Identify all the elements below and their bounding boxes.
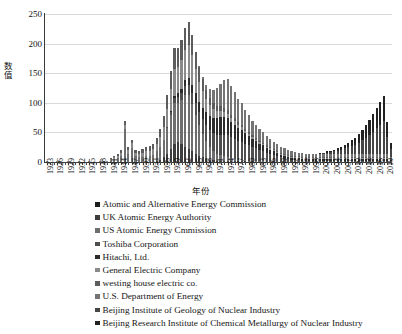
bar-segment xyxy=(180,60,182,88)
bar-segment xyxy=(195,69,197,94)
bar-segment xyxy=(205,125,207,140)
legend-item-10[interactable]: Beijing Research Institute of Chemical M… xyxy=(95,317,402,330)
bar-segment xyxy=(230,137,232,158)
bar-segment xyxy=(173,48,175,68)
stacked-bar xyxy=(365,125,367,162)
bar-segment xyxy=(230,86,232,114)
bar-segment xyxy=(202,119,204,133)
bar-segment xyxy=(248,115,250,132)
bar-segment xyxy=(188,95,190,149)
bar-segment xyxy=(386,137,388,155)
legend-label: Hitachi, Ltd. xyxy=(103,251,150,264)
bar-segment xyxy=(209,116,211,130)
bar-segment xyxy=(198,67,200,81)
bar-segment xyxy=(258,129,260,141)
bar-segment xyxy=(255,125,257,138)
bar-segment xyxy=(234,139,236,159)
stacked-bar xyxy=(177,48,179,162)
bar-segment xyxy=(376,108,378,128)
bar-segment xyxy=(241,130,243,142)
bar-segment xyxy=(212,109,214,117)
legend-label: US Atomic Energy Cmmission xyxy=(103,224,217,237)
bar-segment xyxy=(170,115,172,149)
bar-segment xyxy=(180,40,182,60)
stacked-bar xyxy=(386,122,388,162)
bar-segment xyxy=(212,118,214,133)
bar-segment xyxy=(358,143,360,155)
bar-segment xyxy=(202,91,204,108)
bar-segment xyxy=(170,71,172,89)
legend-swatch-icon xyxy=(95,215,100,220)
bar-segment xyxy=(195,52,197,69)
stacked-bar xyxy=(237,99,239,162)
legend-swatch-icon xyxy=(95,321,100,326)
chart-legend: Atomic and Alternative Energy Commission… xyxy=(95,198,402,330)
legend-item-4[interactable]: Toshiba Corporation xyxy=(95,238,402,251)
y-tick-250: 250 xyxy=(29,10,43,19)
bar-segment xyxy=(166,109,168,127)
bar-segment xyxy=(198,112,200,125)
bar-segment xyxy=(354,138,356,145)
bar-segment xyxy=(212,90,214,103)
legend-swatch-icon xyxy=(95,202,100,207)
bar-segment xyxy=(191,93,193,104)
stacked-bar xyxy=(212,90,214,162)
legend-item-8[interactable]: U.S. Department of Energy xyxy=(95,290,402,303)
bar-segment xyxy=(177,67,179,93)
stacked-bar xyxy=(195,52,197,162)
axes xyxy=(45,14,392,162)
bar-segment xyxy=(351,146,353,154)
bar-segment xyxy=(266,136,268,145)
bar-segment xyxy=(216,135,218,154)
stacked-bar xyxy=(376,108,378,162)
legend-swatch-icon xyxy=(95,242,100,247)
bar-segment xyxy=(191,85,193,93)
legend-item-6[interactable]: General Electric Company xyxy=(95,264,402,277)
bar-segment xyxy=(273,142,275,149)
bar-segment xyxy=(173,69,175,96)
bar-segment xyxy=(361,130,363,141)
bar-segment xyxy=(234,125,236,139)
legend-swatch-icon xyxy=(95,294,100,299)
bar-segment xyxy=(209,130,211,147)
legend-item-7[interactable]: westing house electric co. xyxy=(95,277,402,290)
bar-segment xyxy=(234,92,236,118)
y-axis-tick-labels: 050100150200250 xyxy=(16,14,42,164)
legend-item-2[interactable]: UK Atomic Energy Authority xyxy=(95,211,402,224)
stacked-bar xyxy=(166,95,168,162)
legend-item-5[interactable]: Hitachi, Ltd. xyxy=(95,251,402,264)
bar-segment xyxy=(188,45,190,78)
x-axis-label: 年份 xyxy=(0,186,402,196)
bar-segment xyxy=(209,89,211,97)
stacked-bar xyxy=(170,71,172,162)
bar-segment xyxy=(255,141,257,148)
bar-segment xyxy=(205,90,207,99)
legend-swatch-icon xyxy=(95,268,100,273)
bar-segment xyxy=(205,112,207,125)
bar-segment xyxy=(198,125,200,156)
bar-segment xyxy=(191,35,193,55)
bar-segment xyxy=(184,28,186,49)
bar-segment xyxy=(223,117,225,135)
bar-segment xyxy=(251,139,253,147)
legend-item-1[interactable]: Atomic and Alternative Energy Commission xyxy=(95,198,402,211)
stacked-bar xyxy=(251,121,253,162)
stacked-bar xyxy=(188,22,190,162)
bar-segment xyxy=(244,110,246,129)
bar-segment xyxy=(156,144,158,151)
legend-item-3[interactable]: US Atomic Energy Cmmission xyxy=(95,224,402,237)
stacked-bar xyxy=(368,120,370,162)
bar-segment xyxy=(237,141,239,160)
stacked-bar xyxy=(244,110,246,162)
bar-segment xyxy=(358,134,360,142)
stacked-bar xyxy=(219,84,221,162)
bar-segment xyxy=(202,79,204,91)
stacked-bar xyxy=(255,125,257,162)
legend-item-9[interactable]: Beijing Institute of Geology of Nuclear … xyxy=(95,304,402,317)
stacked-bar xyxy=(198,66,200,162)
stacked-bar xyxy=(202,77,204,162)
bar-segment xyxy=(180,93,182,100)
bar-segment xyxy=(188,78,190,85)
bar-segment xyxy=(354,145,356,154)
bar-segment xyxy=(195,115,197,154)
